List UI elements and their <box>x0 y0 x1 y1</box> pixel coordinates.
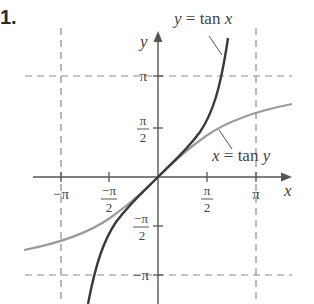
svg-text:π: π <box>140 113 147 128</box>
axes <box>33 37 286 304</box>
x-tick-label-half-pi: π 2 <box>201 183 213 215</box>
x-tick-label-pi: π <box>252 186 260 202</box>
x-tick-label-neg-half-pi: −π 2 <box>101 183 117 215</box>
svg-text:−π: −π <box>134 211 148 226</box>
svg-text:−π: −π <box>102 183 116 198</box>
x-axis-label: x <box>283 181 292 200</box>
tan-x-label-leader <box>209 36 222 55</box>
x-tick-label-neg-pi: −π <box>53 186 69 202</box>
graph-canvas: y = tan x x = tan y x y −π −π 2 π 2 π π … <box>0 0 314 304</box>
svg-text:2: 2 <box>204 200 211 215</box>
tan-y-label: x = tan y <box>211 146 271 165</box>
tan-x-label: y = tan x <box>172 9 233 28</box>
svg-text:2: 2 <box>140 130 147 145</box>
y-tick-label-neg-pi: −π <box>133 267 149 283</box>
y-axis-label: y <box>138 32 148 51</box>
svg-text:π: π <box>204 183 211 198</box>
svg-text:2: 2 <box>139 228 146 243</box>
y-axis-arrow-icon <box>154 31 163 42</box>
y-tick-label-neg-half-pi: −π 2 <box>133 211 149 243</box>
svg-text:2: 2 <box>106 200 113 215</box>
y-tick-label-pi: π <box>139 68 147 84</box>
y-tick-label-half-pi: π 2 <box>137 113 149 145</box>
